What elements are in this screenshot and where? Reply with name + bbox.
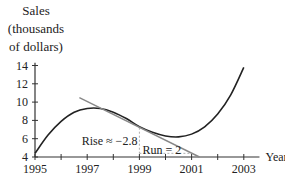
y-tick-label: 6 [22,132,28,146]
x-tick-label: 2001 [180,162,204,176]
y-tick-label: 12 [16,77,28,91]
y-tick-label: 8 [22,113,28,127]
x-tick-label: 2003 [232,162,256,176]
y-tick-label: 14 [16,59,28,73]
x-axis-title: Year [265,150,285,164]
x-tick-label: 1997 [75,162,99,176]
x-tick-label: 1999 [127,162,151,176]
chart-plot: 19951997199920012003468101214YearRise ≈ … [0,0,285,180]
rise-annotation: Rise ≈ −2.8 [82,134,138,148]
x-tick-label: 1995 [23,162,47,176]
y-tick-label: 10 [16,95,28,109]
run-annotation: Run = 2 [142,143,181,157]
y-tick-label: 4 [22,150,28,164]
